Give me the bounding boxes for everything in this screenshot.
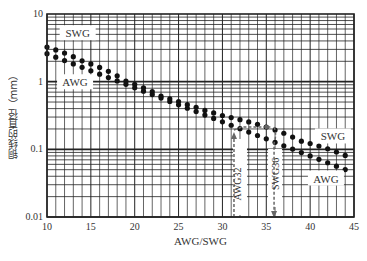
swg-point bbox=[290, 134, 295, 139]
swg-point bbox=[299, 139, 304, 144]
x-tick-label: 15 bbox=[86, 221, 96, 232]
series-label-swg: SWG bbox=[65, 27, 90, 39]
awg-point bbox=[281, 143, 286, 148]
swg-point bbox=[246, 119, 251, 124]
label-awg32: AWG32 bbox=[232, 167, 243, 200]
swg-point bbox=[79, 58, 84, 63]
x-tick-label: 20 bbox=[130, 221, 140, 232]
axes: 10152025303540451010.10.01AWG/SWG bbox=[26, 8, 360, 247]
plot-frame bbox=[47, 14, 354, 217]
x-tick-label: 40 bbox=[305, 221, 315, 232]
x-tick-label: 30 bbox=[217, 221, 227, 232]
swg-point bbox=[88, 61, 93, 66]
swg-point bbox=[115, 73, 120, 78]
y-tick-label: 1 bbox=[38, 76, 43, 87]
arrow-up-icon bbox=[231, 132, 237, 139]
x-tick-label: 10 bbox=[42, 221, 52, 232]
awg-point bbox=[299, 150, 304, 155]
series-label-swg: SWG bbox=[321, 130, 346, 142]
y-tick-label: 10 bbox=[33, 8, 43, 19]
swg-point bbox=[229, 115, 234, 120]
awg-point bbox=[194, 109, 199, 114]
series-label-awg: AWG bbox=[62, 76, 87, 88]
x-tick-label: 45 bbox=[349, 221, 359, 232]
awg-point bbox=[185, 106, 190, 111]
swg-point bbox=[220, 113, 225, 118]
awg-point bbox=[255, 133, 260, 138]
awg-point bbox=[71, 61, 76, 66]
x-axis-label: AWG/SWG bbox=[174, 235, 227, 247]
awg-point bbox=[229, 123, 234, 128]
wire-gauge-chart: SWGAWGSWGAWGAWG32SWG36 10152025303540451… bbox=[0, 0, 367, 261]
awg-point bbox=[88, 68, 93, 73]
awg-point bbox=[325, 160, 330, 165]
swg-point bbox=[308, 141, 313, 146]
awg-point bbox=[290, 146, 295, 151]
series-label-awg: AWG bbox=[313, 173, 338, 185]
awg-point bbox=[334, 164, 339, 169]
awg-point bbox=[176, 102, 181, 107]
swg-point bbox=[237, 117, 242, 122]
swg-point bbox=[106, 69, 111, 74]
awg-point bbox=[141, 89, 146, 94]
awg-point bbox=[97, 72, 102, 77]
swg-point bbox=[202, 108, 207, 113]
awg-point bbox=[53, 55, 58, 60]
awg-point bbox=[316, 157, 321, 162]
annotations: SWGAWGSWGAWGAWG32SWG36 bbox=[57, 25, 351, 218]
swg-point bbox=[281, 131, 286, 136]
chart-grid bbox=[47, 14, 354, 217]
y-tick-label: 0.1 bbox=[31, 143, 44, 154]
awg-point bbox=[220, 119, 225, 124]
y-axis-label: 铜线的直径（mm） bbox=[6, 70, 20, 159]
swg-point bbox=[97, 65, 102, 70]
swg-point bbox=[211, 110, 216, 115]
swg-point bbox=[325, 146, 330, 151]
awg-point bbox=[106, 75, 111, 80]
swg-point bbox=[343, 153, 348, 158]
x-tick-label: 25 bbox=[174, 221, 184, 232]
awg-point bbox=[150, 92, 155, 97]
awg-point bbox=[308, 153, 313, 158]
awg-point bbox=[132, 85, 137, 90]
swg-point bbox=[255, 122, 260, 127]
label-swg36: SWG36 bbox=[270, 158, 281, 190]
swg-point bbox=[71, 54, 76, 59]
swg-point bbox=[53, 47, 58, 52]
awg-point bbox=[79, 65, 84, 70]
awg-point bbox=[246, 129, 251, 134]
awg-point bbox=[202, 112, 207, 117]
awg-point bbox=[158, 95, 163, 100]
y-tick-label: 0.01 bbox=[26, 211, 44, 222]
swg-point bbox=[334, 149, 339, 154]
awg-point bbox=[211, 116, 216, 121]
x-tick-label: 35 bbox=[261, 221, 271, 232]
awg-point bbox=[167, 99, 172, 104]
swg-point bbox=[316, 143, 321, 148]
awg-point bbox=[123, 82, 128, 87]
swg-point bbox=[62, 51, 67, 56]
awg-point bbox=[62, 58, 67, 63]
awg-point bbox=[264, 136, 269, 141]
awg-point bbox=[115, 78, 120, 83]
awg-point bbox=[237, 126, 242, 131]
